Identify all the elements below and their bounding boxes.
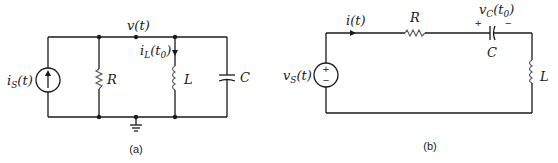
resistor-b [405, 30, 425, 36]
resistor-label-a: R [106, 72, 117, 87]
capacitor-a [219, 37, 235, 117]
junction-dot [173, 35, 177, 39]
circuit-diagrams: iS(t) R iL(t0) L C v(t) [0, 0, 558, 163]
circuit-a: iS(t) R iL(t0) L C v(t) [7, 18, 250, 155]
source-label-a: iS(t) [7, 73, 33, 90]
inductor-current-label: iL(t0) [140, 43, 171, 60]
capacitor-label-b: C [487, 45, 497, 60]
current-label-b: i(t) [346, 13, 366, 28]
inductor-label-a: L [183, 72, 193, 87]
right-arrow-icon [350, 30, 356, 36]
cap-plus-sign: + [475, 17, 481, 29]
junction-dot [173, 115, 177, 119]
resistor-a [96, 37, 102, 117]
caption-a: (a) [129, 143, 142, 155]
inductor-a [172, 37, 178, 117]
junction-dot [134, 35, 138, 39]
current-source [36, 37, 60, 117]
ground-icon [130, 117, 142, 131]
inductor-b [530, 60, 533, 83]
resistor-label-b: R [409, 10, 420, 25]
capacitor-label-a: C [240, 70, 250, 85]
down-arrow-icon [172, 50, 178, 56]
source-minus-sign: − [323, 74, 329, 86]
circuit-b: + − vS(t) i(t) R + − vC(t0) C L (b) [283, 2, 549, 152]
voltage-source: + − [314, 63, 338, 87]
capacitor-voltage-label: vC(t0) [479, 2, 514, 19]
inductor-label-b: L [539, 69, 549, 84]
node-voltage-label: v(t) [127, 18, 150, 33]
source-label-b: vS(t) [283, 68, 312, 85]
junction-dot [97, 115, 101, 119]
junction-dot [97, 35, 101, 39]
caption-b: (b) [423, 140, 436, 152]
